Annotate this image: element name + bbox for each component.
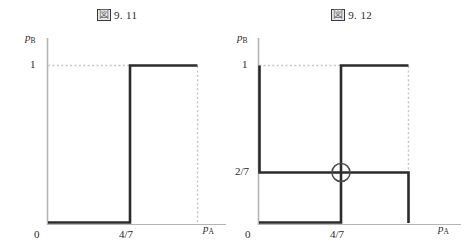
figure-pair: 図9. 11 pB pA 1 0 4/7 図9. 12: [0, 0, 469, 252]
x-axis-label-pa: pA: [438, 222, 449, 234]
y-axis-label-pb: pB: [237, 31, 248, 43]
x-tick-label-zero: 0: [34, 228, 40, 240]
figure-panel-9-12: 図9. 12 pB pA 1 2/7 0 4/7: [234, 0, 469, 252]
plot-area-9-12: [234, 0, 469, 252]
best-response-curve-b: [48, 66, 198, 223]
x-axis-label-pa: pA: [203, 222, 214, 234]
y-axis-label-pb: pB: [25, 31, 36, 43]
y-tick-label-one: 1: [30, 58, 36, 70]
best-response-curve-b: [259, 66, 409, 223]
x-tick-label-four-sevenths: 4/7: [119, 228, 133, 240]
figure-panel-9-11: 図9. 11 pB pA 1 0 4/7: [0, 0, 234, 252]
y-tick-label-one: 1: [242, 58, 248, 70]
y-tick-label-two-sevenths: 2/7: [235, 165, 249, 177]
x-tick-label-zero: 0: [245, 228, 251, 240]
x-tick-label-four-sevenths: 4/7: [330, 228, 344, 240]
best-response-curve-a: [260, 66, 409, 224]
